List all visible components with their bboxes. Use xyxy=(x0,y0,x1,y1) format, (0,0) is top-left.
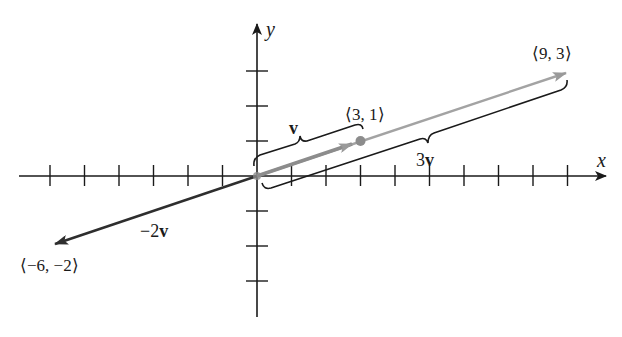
point-3-1-dot xyxy=(356,136,366,146)
vector-diagram: x y ⟨3, 1⟩ ⟨9, 3⟩ ⟨−6, −2⟩ v 3v −2v xyxy=(0,0,622,337)
coordinate-plane xyxy=(0,0,622,337)
vector-label-v: v xyxy=(289,119,298,137)
brace-3v xyxy=(262,80,567,188)
point-label-neg6-neg2: ⟨−6, −2⟩ xyxy=(20,257,79,274)
origin-point xyxy=(253,172,261,180)
point-label-3-1: ⟨3, 1⟩ xyxy=(345,106,385,123)
point-label-9-3: ⟨9, 3⟩ xyxy=(532,45,572,62)
vector-label-3v: 3v xyxy=(416,151,434,169)
x-axis-label: x xyxy=(597,150,606,170)
vector-label-neg2v: −2v xyxy=(140,222,168,240)
y-axis-label: y xyxy=(266,19,275,39)
vector-v xyxy=(257,144,352,176)
